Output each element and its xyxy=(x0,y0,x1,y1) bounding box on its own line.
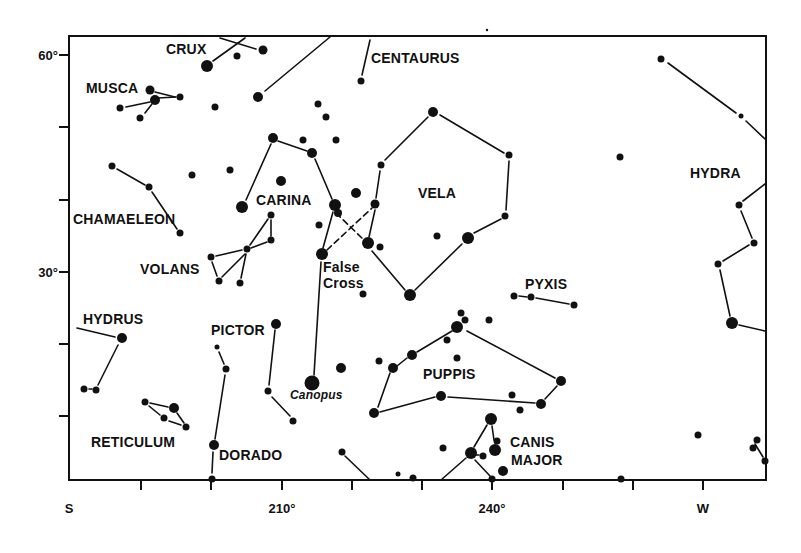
star-dot xyxy=(316,222,323,229)
star-dot xyxy=(517,407,524,414)
star-dot xyxy=(93,387,100,394)
star-name-label: Canopus xyxy=(290,388,343,402)
star-dot xyxy=(236,201,248,213)
constellation-line xyxy=(519,296,527,297)
star-dot xyxy=(434,233,441,240)
star-dot xyxy=(739,114,744,119)
star-dot xyxy=(362,237,374,249)
star-dot xyxy=(536,399,546,409)
star-dot xyxy=(658,56,665,63)
star-dot xyxy=(388,363,398,373)
star-dot xyxy=(307,148,317,158)
constellation-label: PUPPIS xyxy=(423,366,476,382)
star-dot xyxy=(253,92,263,102)
star-dot xyxy=(315,101,322,108)
star-dot xyxy=(109,163,116,170)
star-dot xyxy=(726,317,738,329)
star-dot xyxy=(618,476,625,483)
star-dot xyxy=(234,53,241,60)
x-axis-label: 210° xyxy=(269,501,296,516)
star-dot xyxy=(378,162,385,169)
star-dot xyxy=(177,230,184,237)
star-dot xyxy=(169,403,179,413)
star-dot xyxy=(410,475,417,482)
star-dot xyxy=(751,240,758,247)
star-dot xyxy=(334,209,342,217)
star-dot xyxy=(428,107,438,117)
star-dot xyxy=(404,289,416,301)
star-dot xyxy=(223,366,230,373)
star-dot xyxy=(271,319,281,329)
star-dot xyxy=(276,176,286,186)
y-axis-label: 30° xyxy=(38,265,58,280)
star-dot xyxy=(244,246,251,253)
star-dot xyxy=(494,438,501,445)
star-dot xyxy=(454,355,461,362)
star-dot xyxy=(762,458,769,465)
star-dot xyxy=(208,254,215,261)
star-dot xyxy=(358,78,365,85)
constellation-line xyxy=(212,452,213,473)
constellation-label: CANIS xyxy=(510,434,555,450)
star-dot xyxy=(209,440,219,450)
star-dot xyxy=(177,94,184,101)
star-dot xyxy=(209,476,216,483)
star-dot xyxy=(528,294,535,301)
star-dot xyxy=(323,114,330,121)
star-dot xyxy=(440,445,447,452)
star-dot xyxy=(161,415,168,422)
star-dot xyxy=(268,212,275,219)
star-dot xyxy=(462,232,474,244)
constellation-label: PYXIS xyxy=(525,276,567,292)
constellation-label: RETICULUM xyxy=(91,434,175,450)
constellation-label: CHAMAELEON xyxy=(73,211,175,227)
star-dot xyxy=(444,337,451,344)
star-dot xyxy=(736,202,743,209)
constellation-label: HYDRA xyxy=(690,165,741,181)
constellation-label: MUSCA xyxy=(86,80,138,96)
star-dot xyxy=(489,476,496,483)
star-dot xyxy=(336,363,346,373)
star-dot xyxy=(556,376,566,386)
star-dot xyxy=(486,317,493,324)
star-dot xyxy=(480,453,487,460)
star-dot xyxy=(268,237,275,244)
star-dot xyxy=(227,167,234,174)
star-dot xyxy=(351,188,361,198)
star-dot xyxy=(376,358,383,365)
star-dot xyxy=(339,449,346,456)
star-dot xyxy=(300,137,307,144)
x-axis-label: S xyxy=(65,501,74,516)
star-dot xyxy=(237,280,244,287)
star-dot xyxy=(695,432,702,439)
star-dot xyxy=(360,291,367,298)
star-dot xyxy=(216,278,223,285)
star-dot xyxy=(117,105,124,112)
y-axis-label: 60° xyxy=(38,48,58,63)
constellation-label: CRUX xyxy=(166,41,207,57)
star-dot xyxy=(571,302,578,309)
star-dot xyxy=(396,472,401,477)
star-dot xyxy=(617,154,624,161)
star-dot xyxy=(201,60,213,72)
star-dot xyxy=(465,447,477,459)
star-dot xyxy=(371,200,380,209)
star-dot xyxy=(458,310,465,317)
star-dot xyxy=(451,321,463,333)
star-dot xyxy=(146,184,153,191)
constellation-label: False xyxy=(323,259,360,275)
constellation-label: Cross xyxy=(323,275,364,291)
star-dot xyxy=(150,95,160,105)
constellation-line xyxy=(158,97,176,98)
constellation-label: CARINA xyxy=(256,192,312,208)
star-dot xyxy=(189,172,196,179)
star-dot xyxy=(511,293,518,300)
star-dot xyxy=(265,388,272,395)
constellation-label: VOLANS xyxy=(140,261,200,277)
stray-mark xyxy=(486,29,488,31)
star-chart: CRUXCENTAURUSMUSCACARINAVELAHYDRACHAMAEL… xyxy=(0,0,801,553)
constellation-label: VELA xyxy=(418,185,456,201)
star-dot xyxy=(715,261,722,268)
star-dot xyxy=(502,213,509,220)
star-dot xyxy=(498,466,508,476)
